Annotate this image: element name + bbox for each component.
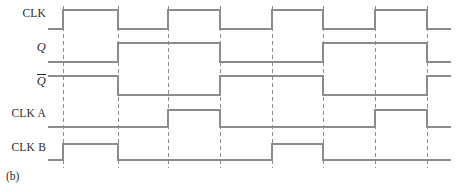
signal-label-qbar: Q — [37, 74, 46, 88]
signal-label-clk-b: CLK B — [11, 142, 46, 154]
signal-label-clk: CLK — [22, 8, 46, 20]
signal-label-clk-a: CLK A — [11, 108, 46, 120]
figure-panel-caption: (b) — [6, 171, 19, 183]
signal-label-q-text: Q — [37, 40, 46, 54]
timing-waveform-canvas — [0, 0, 457, 192]
waveform-q — [48, 43, 451, 62]
signal-label-qbar-text: Q — [37, 74, 46, 88]
signal-label-clk-text: CLK — [22, 7, 46, 19]
signal-label-clk-a-text: CLK A — [11, 107, 46, 119]
waveforms-group — [48, 10, 451, 160]
signal-label-clk-b-text: CLK B — [11, 141, 46, 153]
timing-diagram-figure: CLK Q Q CLK A CLK B (b) — [0, 0, 457, 192]
waveform-clk-a — [48, 110, 451, 127]
waveform-clk-b — [48, 144, 451, 160]
waveform-qbar — [48, 76, 451, 95]
signal-label-q: Q — [37, 41, 46, 54]
waveform-clk — [48, 10, 451, 29]
